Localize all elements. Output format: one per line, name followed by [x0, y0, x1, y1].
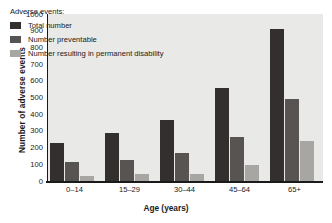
y-tick-label: 400	[16, 111, 43, 118]
legend-entries: Total numberNumber preventableNumber res…	[10, 21, 164, 58]
bar	[160, 120, 174, 181]
chart-legend: Adverse events: Total numberNumber preve…	[10, 7, 164, 63]
bar	[245, 165, 259, 181]
y-tick-label: 500	[16, 94, 43, 101]
legend-label: Total number	[28, 21, 72, 30]
bar	[135, 174, 149, 182]
bar	[270, 29, 284, 181]
legend-entry: Number resulting in permanent disability	[10, 49, 164, 58]
legend-swatch-icon	[10, 36, 21, 43]
legend-label: Number resulting in permanent disability	[28, 49, 164, 58]
y-tick-label: 600	[16, 77, 43, 84]
bar	[285, 99, 299, 181]
legend-entry: Number preventable	[10, 35, 164, 44]
y-tick-label: 0	[16, 178, 43, 185]
bar-group	[270, 14, 314, 181]
x-tick-label: 15–29	[102, 185, 157, 194]
bar	[190, 174, 204, 182]
legend-entry: Total number	[10, 21, 164, 30]
legend-label: Number preventable	[28, 35, 97, 44]
legend-swatch-icon	[10, 50, 21, 57]
bar	[175, 153, 189, 181]
legend-title: Adverse events:	[10, 7, 164, 16]
legend-swatch-icon	[10, 22, 21, 29]
x-axis-line	[46, 181, 323, 183]
x-tick-label: 45–64	[212, 185, 267, 194]
x-axis-title: Age (years)	[0, 203, 332, 213]
bar-group	[215, 14, 259, 181]
bar	[50, 143, 64, 181]
chart-figure: Number of adverse events 010020030040050…	[0, 0, 332, 223]
bar	[65, 162, 79, 181]
y-tick-label: 200	[16, 144, 43, 151]
bar	[105, 133, 119, 181]
bar	[215, 88, 229, 181]
y-tick-label: 300	[16, 127, 43, 134]
x-tick-label: 30–44	[157, 185, 212, 194]
x-tick-label: 0–14	[47, 185, 102, 194]
y-tick-label: 100	[16, 161, 43, 168]
bar	[120, 160, 134, 181]
x-tick-label: 65+	[267, 185, 322, 194]
bar	[300, 141, 314, 181]
bar	[230, 137, 244, 181]
bar-group	[160, 14, 204, 181]
